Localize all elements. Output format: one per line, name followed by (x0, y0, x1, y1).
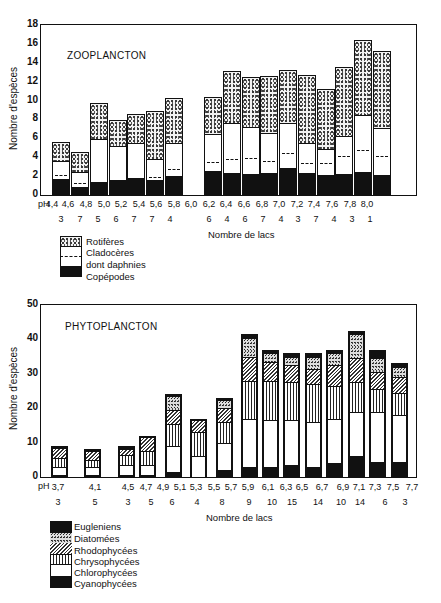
phyto-seg-cyanophycees (264, 467, 277, 477)
phyto-lake-count: 14 (308, 497, 328, 507)
zoo-seg-copepodes (166, 176, 182, 195)
zoo-lake-count: 4 (324, 214, 344, 224)
zoo-ph-label: 7,4 (304, 199, 324, 209)
legend-diatomees-swatch (50, 533, 72, 543)
phyto-seg-cyanophycees (393, 462, 406, 477)
phyto-seg-chrysophycees (307, 384, 320, 422)
zoo-plot-area: ZOOPLANCTON (40, 24, 417, 196)
zoo-daphnies-line (149, 177, 161, 178)
zoo-daphnies-line (226, 159, 238, 160)
phyto-ph-label: 5,3 (186, 482, 206, 492)
phyto-lake-count: 14 (350, 497, 370, 507)
phyto-seg-chlorophycees (243, 419, 256, 467)
phyto-lake-count: 6 (375, 497, 395, 507)
zoo-lake-count: 7 (70, 214, 90, 224)
zoo-ph-label: 5,2 (111, 199, 131, 209)
phyto-chart-title: PHYTOPLANCTON (65, 321, 157, 332)
zoo-seg-copepodes (224, 173, 240, 195)
zoo-bar (71, 152, 89, 195)
phyto-seg-chrysophycees (218, 422, 231, 443)
phyto-ytick-label: 20 (16, 401, 38, 412)
zoo-seg-copepodes (318, 175, 334, 195)
zoo-ytick-label: 10 (16, 94, 38, 105)
phyto-seg-diatomees (218, 400, 231, 409)
phyto-seg-cyanophycees (328, 463, 341, 477)
phyto-seg-chrysophycees (243, 381, 256, 419)
phyto-bar (190, 419, 207, 477)
phyto-x-axis-label: Nombre de lacs (206, 512, 273, 523)
phyto-ytick-label: 50 (16, 298, 38, 309)
phyto-seg-diatomees (371, 358, 384, 372)
phyto-seg-chlorophycees (218, 443, 231, 471)
phyto-seg-diatomees (167, 396, 180, 410)
phyto-seg-chlorophycees (192, 456, 205, 477)
phyto-seg-chlorophycees (53, 467, 66, 476)
phyto-bar (262, 350, 279, 477)
phyto-bar (326, 350, 343, 477)
zoo-lake-count: 1 (360, 214, 380, 224)
phyto-seg-chrysophycees (393, 393, 406, 415)
zoo-ytick-label: 4 (16, 150, 38, 161)
zoo-seg-copepodes (374, 175, 390, 195)
zoo-ytick-label: 16 (16, 37, 38, 48)
phyto-seg-rhodophycees (243, 357, 256, 381)
zoo-lake-count: 3 (51, 214, 71, 224)
zoo-lake-count: 6 (199, 214, 219, 224)
phyto-seg-cyanophycees (350, 456, 363, 477)
phyto-seg-cyanophycees (285, 465, 298, 477)
phyto-seg-eugleniens (328, 350, 341, 353)
zoo-ph-label: 6,0 (181, 199, 201, 209)
phyto-bar (241, 334, 258, 477)
zoo-bar (242, 77, 260, 195)
legend-diatomees-label: Diatomées (74, 533, 119, 544)
zoo-bar (146, 111, 164, 195)
legend-rhodophycees-swatch (50, 543, 72, 554)
zoo-ph-label: 7,6 (322, 199, 342, 209)
zoo-lake-count: 7 (124, 214, 144, 224)
phyto-bar (118, 446, 135, 477)
phyto-ph-label: 3,7 (48, 482, 68, 492)
phyto-seg-chlorophycees (120, 465, 133, 475)
phyto-seg-chrysophycees (86, 460, 99, 467)
zoo-bar (52, 142, 70, 195)
phyto-lake-count: 3 (118, 497, 138, 507)
zoo-bar (335, 67, 353, 195)
zoo-x-axis-label: Nombre de lacs (208, 229, 275, 240)
zoo-ytick-label: 12 (16, 75, 38, 86)
zoo-lake-count: 7 (142, 214, 162, 224)
phyto-ph-label: 7,5 (383, 482, 403, 492)
phyto-seg-chlorophycees (264, 420, 277, 466)
phyto-seg-chrysophycees (120, 455, 133, 465)
phyto-seg-diatomees (328, 353, 341, 365)
zoo-lake-count: 3 (288, 214, 308, 224)
zoo-ph-label: 4,8 (76, 199, 96, 209)
phyto-bar (283, 353, 300, 477)
phyto-seg-chlorophycees (371, 412, 384, 462)
phyto-seg-eugleniens (86, 449, 99, 451)
phyto-ph-label: 4,5 (118, 482, 138, 492)
phyto-bar (165, 394, 182, 477)
phyto-seg-chlorophycees (167, 446, 180, 472)
phyto-lake-count: 15 (282, 497, 302, 507)
phyto-seg-chrysophycees (192, 432, 205, 456)
zoo-ph-label: 6,6 (234, 199, 254, 209)
phyto-seg-chrysophycees (285, 382, 298, 420)
phyto-seg-eugleniens (53, 446, 66, 448)
legend-eugleniens-swatch (50, 521, 72, 533)
phyto-seg-rhodophycees (350, 358, 363, 382)
phyto-bar (305, 353, 322, 477)
phyto-seg-cyanophycees (53, 475, 66, 477)
zoo-bar (127, 114, 145, 195)
phyto-seg-rhodophycees (192, 420, 205, 432)
phyto-seg-cyanophycees (371, 462, 384, 477)
legend-cyanophycees-swatch (50, 576, 72, 588)
zoo-bar (109, 120, 127, 195)
phyto-seg-chrysophycees (350, 382, 363, 411)
phyto-seg-eugleniens (218, 398, 231, 400)
legend-rhodophycees-label: Rhodophycées (74, 545, 137, 556)
phyto-seg-chrysophycees (371, 389, 384, 411)
phyto-seg-rhodophycees (53, 448, 66, 458)
phyto-ph-label: 7,3 (365, 482, 385, 492)
phyto-seg-rhodophycees (307, 369, 320, 384)
phyto-seg-rhodophycees (285, 365, 298, 382)
